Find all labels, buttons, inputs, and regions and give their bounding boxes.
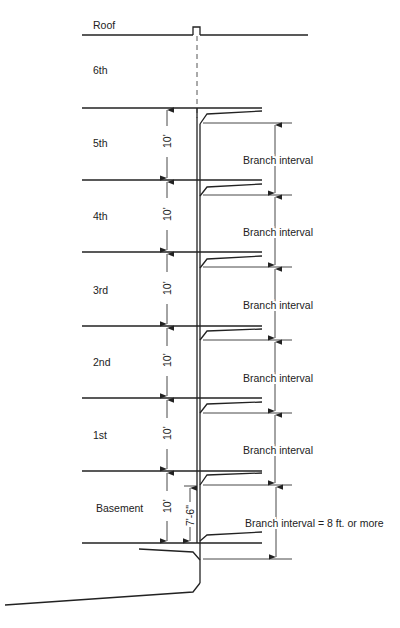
floor-label-roof: Roof xyxy=(93,19,115,31)
floor-label-basement: Basement xyxy=(96,502,143,514)
floor-lines xyxy=(82,108,262,543)
floor-label-4th: 4th xyxy=(93,210,108,222)
floor-height-label: 10' xyxy=(161,499,173,513)
floor-label-5th: 5th xyxy=(93,137,108,149)
branch-interval-label: Branch interval xyxy=(243,299,313,311)
basement-branch-height-label: 7'-6" xyxy=(184,505,196,526)
branch-interval-label: Branch interval xyxy=(243,372,313,384)
branch-interval-label: Branch interval xyxy=(243,226,313,238)
floor-label-2nd: 2nd xyxy=(93,356,111,368)
floor-label-1st: 1st xyxy=(93,429,107,441)
floor-height-label: 10' xyxy=(161,134,173,148)
floor-label-6th: 6th xyxy=(93,64,108,76)
floor-label-3rd: 3rd xyxy=(93,284,108,296)
branch-interval-label: Branch interval = 8 ft. or more xyxy=(245,517,384,529)
branch-interval-label: Branch interval xyxy=(243,154,313,166)
branch-interval-lines xyxy=(203,123,292,559)
floor-height-label: 10' xyxy=(161,207,173,221)
branch-interval-label: Branch interval xyxy=(243,444,313,456)
floor-height-label: 10' xyxy=(161,281,173,295)
drainage-stack-diagram: Roof 6th 5th 4th 3rd 2nd 1st Basement 10… xyxy=(0,0,400,628)
floor-height-label: 10' xyxy=(161,353,173,367)
branch-interval-arrows xyxy=(275,125,276,557)
floor-height-label: 10' xyxy=(161,426,173,440)
roof-line xyxy=(82,27,308,35)
